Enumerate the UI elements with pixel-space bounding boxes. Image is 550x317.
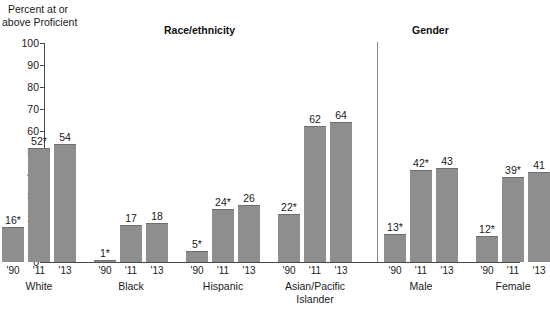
group-label: Male <box>410 280 433 293</box>
x-axis-tick-label: '13 <box>532 265 545 276</box>
y-axis-title-line2: above Proficient <box>2 16 77 28</box>
bar-value-label: 12* <box>479 224 495 235</box>
group-label: Asian/PacificIslander <box>285 280 345 305</box>
bar: 64 <box>330 122 352 262</box>
x-axis-tick-label: '13 <box>58 265 71 276</box>
section-header-race: Race/ethnicity <box>164 24 235 36</box>
group-label-line1: Male <box>410 280 433 293</box>
y-axis-tick-label: 70 <box>27 103 39 114</box>
bar: 54 <box>54 144 76 262</box>
bar: 26 <box>238 205 260 262</box>
y-axis-tick-label: 90 <box>27 60 39 71</box>
group-label: Female <box>495 280 530 293</box>
y-axis-tick-label: 100 <box>21 38 39 49</box>
group-label: White <box>26 280 53 293</box>
bar-value-label: 42* <box>413 158 429 169</box>
y-axis-tick-label: 80 <box>27 82 39 93</box>
x-axis-tick-label: '11 <box>309 265 321 276</box>
group-label-line1: Female <box>495 280 530 293</box>
group-label-line1: Asian/Pacific <box>285 280 345 293</box>
bar-value-label: 52* <box>31 136 47 147</box>
bar: 41 <box>528 172 550 262</box>
y-axis-title: Percent at or above Proficient <box>8 3 116 28</box>
bar: 12* <box>476 236 498 262</box>
y-axis-tick-mark <box>40 87 44 88</box>
y-axis-tick-mark <box>40 65 44 66</box>
group-label-line1: Hispanic <box>203 280 243 293</box>
y-axis-tick-mark <box>40 43 44 44</box>
x-axis-tick-label: '11 <box>217 265 229 276</box>
x-axis-tick-label: '90 <box>6 265 19 276</box>
bar-value-label: 24* <box>215 197 231 208</box>
x-axis-tick-label: '11 <box>125 265 137 276</box>
bar-value-label: 13* <box>387 222 403 233</box>
x-axis-line <box>44 262 520 263</box>
bar-value-label: 39* <box>505 165 521 176</box>
x-axis-tick-label: '13 <box>440 265 453 276</box>
group-label: Black <box>118 280 144 293</box>
y-axis-title-line1: Percent at or <box>8 3 68 15</box>
bar: 13* <box>384 234 406 262</box>
bar-value-label: 43 <box>441 156 453 167</box>
group-label: Hispanic <box>203 280 243 293</box>
bar: 62 <box>304 126 326 262</box>
group-label-line1: White <box>26 280 53 293</box>
x-axis-tick-label: '90 <box>190 265 203 276</box>
bar: 42* <box>410 170 432 262</box>
bar-value-label: 22* <box>281 202 297 213</box>
bar-value-label: 18 <box>151 211 163 222</box>
bar-value-label: 41 <box>533 160 545 171</box>
bar-value-label: 17 <box>125 213 137 224</box>
y-axis-tick-mark <box>40 131 44 132</box>
bar-value-label: 1* <box>100 248 110 259</box>
bar: 5* <box>186 251 208 262</box>
bar: 18 <box>146 223 168 262</box>
y-axis-tick-mark <box>40 262 44 263</box>
bar: 52* <box>28 148 50 262</box>
bar-value-label: 26 <box>243 193 255 204</box>
section-header-gender: Gender <box>412 24 449 36</box>
bar-value-label: 62 <box>309 114 321 125</box>
bar: 24* <box>212 209 234 262</box>
bar: 17 <box>120 225 142 262</box>
x-axis-tick-label: '11 <box>415 265 427 276</box>
x-axis-tick-label: '11 <box>33 265 45 276</box>
x-axis-tick-label: '90 <box>480 265 493 276</box>
group-label-line1: Black <box>118 280 144 293</box>
bar-value-label: 5* <box>192 239 202 250</box>
x-axis-tick-label: '90 <box>98 265 111 276</box>
x-axis-tick-label: '90 <box>282 265 295 276</box>
x-axis-tick-label: '13 <box>334 265 347 276</box>
bar-value-label: 64 <box>335 110 347 121</box>
x-axis-tick-label: '90 <box>388 265 401 276</box>
plot-area: 100908070605040302010016*52*541*17185*24… <box>44 43 520 262</box>
group-label-line2: Islander <box>285 293 345 306</box>
x-axis-tick-label: '13 <box>242 265 255 276</box>
bar-value-label: 54 <box>59 132 71 143</box>
bar: 16* <box>2 227 24 262</box>
bar: 39* <box>502 177 524 262</box>
bar: 1* <box>94 260 116 262</box>
bar: 43 <box>436 168 458 262</box>
x-axis-tick-label: '11 <box>507 265 519 276</box>
bar-value-label: 16* <box>5 215 21 226</box>
x-axis-tick-label: '13 <box>150 265 163 276</box>
y-axis-tick-mark <box>40 109 44 110</box>
bar: 22* <box>278 214 300 262</box>
